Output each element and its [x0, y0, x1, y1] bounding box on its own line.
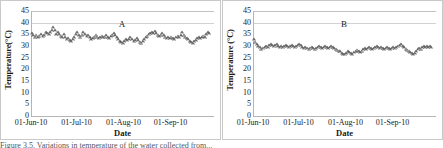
y-tick-label: 45: [14, 7, 29, 15]
data-point-marker: [203, 39, 207, 42]
figure-caption: Figure 3.5. Variations in temperature of…: [0, 142, 443, 148]
x-axis-title-b: Date: [253, 129, 436, 138]
y-tick-label: 30: [236, 42, 251, 50]
y-tick-label: 20: [14, 65, 29, 73]
y-tick-label: 20: [236, 65, 251, 73]
y-tick-label: 25: [236, 54, 251, 62]
panel-letter-a: A: [119, 19, 126, 29]
y-tick-label: 35: [236, 30, 251, 38]
y-axis-title-b: Temperature (°C): [224, 1, 236, 119]
panel-letter-b: B: [341, 19, 347, 29]
y-tick-label: 10: [14, 89, 29, 97]
y-tick-label: 45: [236, 7, 251, 15]
x-tick-label: 01-Aug-10: [106, 119, 141, 127]
x-tick-label: 01-Jul-10: [61, 119, 92, 127]
data-point-marker: [429, 49, 433, 52]
x-axis-title-a: Date: [31, 129, 214, 138]
y-tick-label: 35: [14, 30, 29, 38]
x-tick-label: 01-Sep-10: [154, 119, 187, 127]
y-axis-title-a: Temperature(°C): [2, 1, 14, 119]
y-tick-label: 25: [14, 54, 29, 62]
y-tick-label: 15: [236, 77, 251, 85]
figure-container: Temperature(°C) 051015202530354045 A 01-…: [0, 0, 443, 148]
chart-panel-a: Temperature(°C) 051015202530354045 A 01-…: [0, 0, 221, 140]
y-axis-ticks-b: 051015202530354045: [236, 11, 251, 117]
y-tick-label: 30: [14, 42, 29, 50]
x-tick-label: 01-Jun-10: [15, 119, 47, 127]
plot-top-rule-b: [254, 11, 436, 12]
plot-top-rule-a: [32, 11, 214, 12]
y-tick-label: 40: [14, 19, 29, 27]
x-tick-label: 01-Jul-10: [283, 119, 314, 127]
x-tick-label: 01-Jun-10: [237, 119, 269, 127]
y-tick-label: 15: [14, 77, 29, 85]
chart-panel-b: Temperature (°C) 051015202530354045 B 01…: [222, 0, 443, 140]
data-point-marker: [72, 39, 76, 42]
x-tick-label: 01-Sep-10: [376, 119, 409, 127]
y-tick-label: 10: [236, 89, 251, 97]
y-axis-ticks-a: 051015202530354045: [14, 11, 29, 117]
y-tick-label: 40: [236, 19, 251, 27]
data-point-marker: [207, 35, 211, 38]
x-tick-label: 01-Aug-10: [328, 119, 363, 127]
y-tick-label: 5: [236, 100, 251, 108]
y-tick-label: 5: [14, 100, 29, 108]
